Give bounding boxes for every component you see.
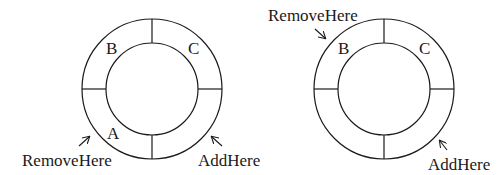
circular-buffer-diagram: B C A RemoveHere AddHere B C RemoveHere …	[0, 0, 501, 175]
left-slot-bottom-left: A	[107, 124, 120, 143]
right-add-here-label: AddHere	[428, 155, 490, 174]
left-inner-circle	[106, 43, 198, 135]
left-remove-here-label: RemoveHere	[22, 151, 112, 170]
left-remove-arrow-icon	[79, 137, 89, 146]
right-ring-buffer: B C RemoveHere AddHere	[268, 6, 490, 174]
left-add-here-label: AddHere	[198, 151, 260, 170]
left-slot-top-right: C	[188, 39, 199, 58]
left-slot-top-left: B	[106, 39, 117, 58]
right-add-arrow-icon	[440, 141, 447, 150]
left-ring-buffer: B C A RemoveHere AddHere	[22, 19, 260, 170]
left-add-arrow-icon	[212, 137, 222, 146]
right-inner-circle	[338, 43, 430, 135]
right-slot-top-left: B	[338, 39, 349, 58]
right-slot-top-right: C	[419, 39, 430, 58]
right-remove-here-label: RemoveHere	[268, 6, 358, 25]
right-remove-arrow-icon	[315, 29, 325, 38]
